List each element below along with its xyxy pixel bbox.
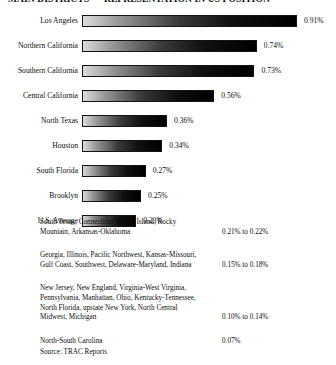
- bar: [82, 40, 257, 52]
- ranged-group-name-line: North-South Carolina: [40, 337, 220, 347]
- bar-row: Houston0.34%: [0, 133, 336, 158]
- bar-category-label: Houston: [0, 142, 82, 150]
- bar-category-label: Brooklyn: [0, 192, 82, 200]
- bar-value-label: 0.74%: [264, 42, 284, 50]
- bar-row: Northern California0.74%: [0, 33, 336, 58]
- bar-category-label: North Texas: [0, 117, 82, 125]
- bar-category-label: Northern California: [0, 42, 82, 50]
- ranged-group-name-line: Georgia, Illinois, Pacific Northwest, Ka…: [40, 251, 220, 261]
- source-note: Source: TRAC Reports: [40, 348, 107, 356]
- ranged-group-name-line: Midwest, Michigan: [40, 313, 220, 323]
- ranged-group-names: North-South Carolina: [40, 337, 220, 347]
- ranged-group-names: New Jersey, New England, Virginia-West V…: [40, 284, 220, 322]
- page-title: MAIN DISTRICTS — REPRESENTATION IN US PO…: [8, 0, 270, 4]
- ranged-group-value: 0.15% to 0.18%: [222, 261, 268, 271]
- bar-row: Central California0.56%: [0, 83, 336, 108]
- bar: [82, 165, 146, 177]
- bar-value-label: 0.27%: [153, 167, 173, 175]
- bar-value-label: 0.34%: [169, 142, 189, 150]
- ranged-group-names: South Texas, Connecticut-Rhode Island, R…: [40, 218, 220, 237]
- bar: [82, 15, 297, 27]
- ranged-group-name-line: Mountain, Arkansas-Oklahoma: [40, 228, 220, 238]
- ranged-group-value: 0.21% to 0.22%: [222, 228, 268, 238]
- bar-row: Southern California0.73%: [0, 58, 336, 83]
- bar: [82, 90, 214, 102]
- ranged-group-name-line: Pennsylvania, Manhattan, Ohio, Kentucky-…: [40, 294, 220, 304]
- ranged-group-name-line: Gulf Coast, Southwest, Delaware-Maryland…: [40, 261, 220, 271]
- chart-title-clipped: MAIN DISTRICTS — REPRESENTATION IN US PO…: [0, 0, 336, 5]
- bar: [82, 65, 254, 77]
- bar-row: Brooklyn0.25%: [0, 183, 336, 208]
- ranged-group-name-line: New Jersey, New England, Virginia-West V…: [40, 284, 220, 294]
- ranged-groups-list: South Texas, Connecticut-Rhode Island, R…: [0, 218, 336, 360]
- bar-value-label: 0.36%: [174, 117, 194, 125]
- ranged-group-value: 0.07%: [222, 337, 241, 347]
- ranged-group-name-line: South Texas, Connecticut-Rhode Island, R…: [40, 218, 220, 228]
- bar-category-label: Los Angeles: [0, 17, 82, 25]
- bar-value-label: 0.25%: [148, 192, 168, 200]
- bar-category-label: Southern California: [0, 67, 82, 75]
- bar: [82, 140, 162, 152]
- ranged-group-value: 0.10% to 0.14%: [222, 313, 268, 323]
- ranged-group-names: Georgia, Illinois, Pacific Northwest, Ka…: [40, 251, 220, 270]
- bar: [82, 190, 141, 202]
- bar-value-label: 0.73%: [261, 67, 281, 75]
- chart-page: MAIN DISTRICTS — REPRESENTATION IN US PO…: [0, 0, 336, 365]
- bar-category-label: Central California: [0, 92, 82, 100]
- bar-category-label: South Florida: [0, 167, 82, 175]
- ranged-group: New Jersey, New England, Virginia-West V…: [0, 284, 336, 328]
- bar-chart: Los Angeles0.91%Northern California0.74%…: [0, 8, 336, 233]
- bar-value-label: 0.91%: [304, 17, 324, 25]
- ranged-group: South Texas, Connecticut-Rhode Island, R…: [0, 218, 336, 243]
- bar: [82, 115, 167, 127]
- bar-row: South Florida0.27%: [0, 158, 336, 183]
- bar-row: North Texas0.36%: [0, 108, 336, 133]
- ranged-group: Georgia, Illinois, Pacific Northwest, Ka…: [0, 251, 336, 276]
- bar-value-label: 0.56%: [221, 92, 241, 100]
- ranged-group-name-line: North Florida, upstate New York, North C…: [40, 304, 220, 314]
- bar-row: Los Angeles0.91%: [0, 8, 336, 33]
